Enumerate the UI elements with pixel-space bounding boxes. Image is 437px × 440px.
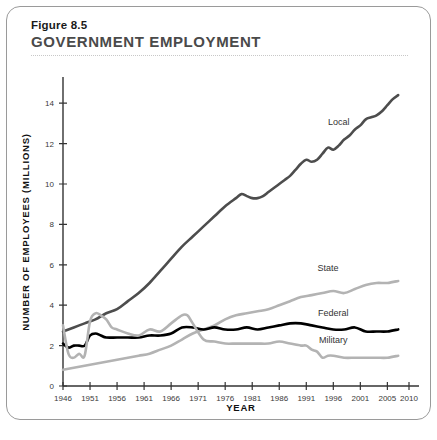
y-tick-label: 14 bbox=[45, 99, 54, 108]
y-tick-label: 8 bbox=[50, 220, 55, 229]
series-line-state bbox=[63, 281, 398, 370]
y-tick-label: 0 bbox=[50, 382, 55, 391]
series-label-federal: Federal bbox=[318, 308, 349, 318]
y-tick-label: 6 bbox=[50, 261, 55, 270]
x-tick-label: 1991 bbox=[297, 394, 315, 403]
x-axis-title: YEAR bbox=[226, 402, 256, 413]
x-tick-label: 1966 bbox=[162, 394, 180, 403]
government-employment-line-chart: 02468101214 1946195119561961196619711976… bbox=[7, 7, 431, 420]
chart-series-labels: LocalStateFederalMilitary bbox=[317, 117, 349, 344]
x-tick-label: 1986 bbox=[270, 394, 288, 403]
y-tick-label: 10 bbox=[45, 180, 54, 189]
y-tick-label: 12 bbox=[45, 140, 54, 149]
series-line-local bbox=[63, 95, 398, 331]
y-tick-label: 4 bbox=[50, 301, 55, 310]
series-label-military: Military bbox=[319, 335, 348, 345]
x-tick-label: 1961 bbox=[135, 394, 153, 403]
chart-plot-area: 02468101214 1946195119561961196619711976… bbox=[7, 7, 431, 420]
x-tick-label: 1951 bbox=[81, 394, 99, 403]
x-tick-label: 1956 bbox=[108, 394, 126, 403]
chart-axes bbox=[63, 77, 419, 386]
chart-series-lines bbox=[63, 95, 398, 370]
y-axis-title: NUMBER OF EMPLOYEES (MILLIONS) bbox=[20, 133, 31, 331]
x-tick-label: 2001 bbox=[351, 394, 369, 403]
y-tick-label: 2 bbox=[50, 342, 55, 351]
series-line-military bbox=[63, 313, 398, 358]
x-tick-label: 1971 bbox=[189, 394, 207, 403]
x-tick-label: 1946 bbox=[54, 394, 72, 403]
x-tick-label: 2005 bbox=[378, 394, 396, 403]
series-label-state: State bbox=[317, 263, 338, 273]
series-label-local: Local bbox=[328, 117, 350, 127]
y-axis-ticks: 02468101214 bbox=[45, 99, 67, 391]
x-axis-ticks: 1946195119561961196619711976198119861991… bbox=[54, 382, 418, 403]
x-tick-label: 1996 bbox=[324, 394, 342, 403]
figure-frame: Figure 8.5 GOVERNMENT EMPLOYMENT 0246810… bbox=[6, 6, 431, 420]
x-tick-label: 2010 bbox=[400, 394, 418, 403]
